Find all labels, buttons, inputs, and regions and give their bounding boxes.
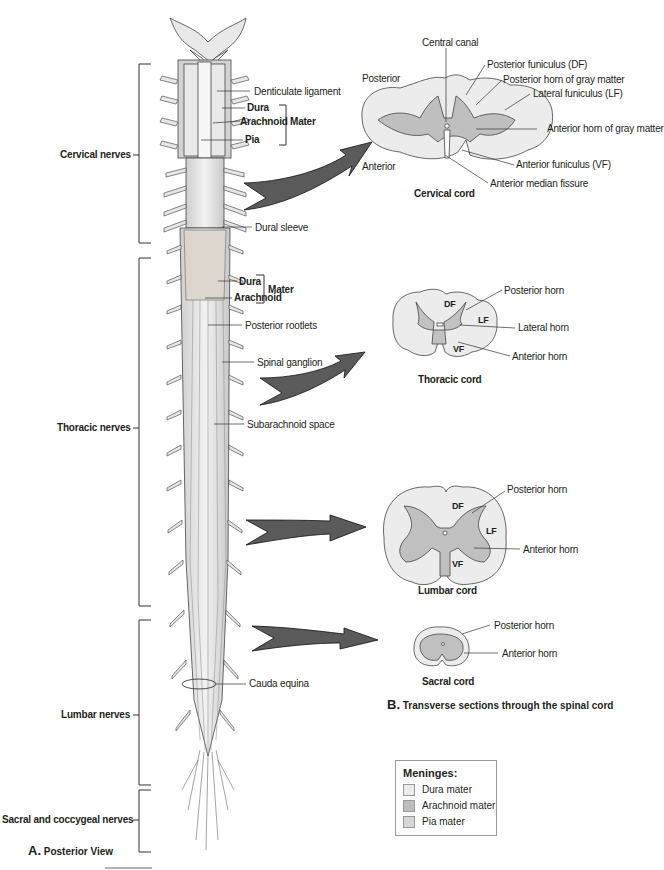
legend-label-arachnoid: Arachnoid mater	[422, 800, 495, 811]
lumbar-vf: VF	[452, 558, 463, 570]
arrow-sacral	[252, 626, 378, 651]
label-anterior-funiculus: Anterior funiculus (VF)	[516, 159, 611, 171]
caption-b: B. Transverse sections through the spina…	[387, 697, 613, 712]
label-thoracic-posterior-horn: Posterior horn	[504, 285, 564, 297]
thoracic-vf: VF	[453, 343, 464, 355]
thoracic-lf: LF	[478, 314, 489, 326]
arrow-lumbar	[246, 515, 366, 545]
label-lumbar-posterior-horn: Posterior horn	[507, 484, 567, 496]
region-label-lumbar: Lumbar nerves	[61, 709, 130, 721]
dura-arachnoid-flap	[184, 230, 226, 300]
thoracic-df: DF	[444, 298, 456, 310]
label-arachnoid-cervical: Arachnoid	[240, 116, 288, 128]
label-central-canal: Central canal	[422, 37, 478, 49]
cauda-filaments	[182, 750, 234, 850]
lumbar-lf: LF	[486, 525, 497, 537]
sacral-cross-section	[414, 627, 469, 666]
caption-a: A. Posterior View	[28, 843, 113, 858]
label-anterior-median-fissure: Anterior median fissure	[490, 178, 588, 190]
label-dural-sleeve: Dural sleeve	[255, 222, 308, 234]
title-sacral-cord: Sacral cord	[422, 676, 474, 688]
caption-b-text: Transverse sections through the spinal c…	[403, 700, 614, 711]
title-lumbar-cord: Lumbar cord	[418, 585, 477, 597]
cervical-cross-section	[362, 75, 553, 159]
arrow-cervical	[244, 142, 372, 210]
title-cervical-cord: Cervical cord	[414, 188, 475, 200]
label-subarachnoid-space: Subarachnoid space	[247, 419, 335, 431]
label-cauda-equina: Cauda equina	[249, 678, 309, 690]
label-mater-cervical: Mater	[290, 116, 316, 128]
label-thoracic-anterior-horn: Anterior horn	[512, 351, 567, 363]
label-pia: Pia	[245, 134, 259, 146]
label-anterior-direction: Anterior	[362, 161, 395, 173]
swatch-dura	[403, 784, 415, 796]
label-posterior-funiculus: Posterior funiculus (DF)	[487, 59, 587, 71]
label-lumbar-anterior-horn: Anterior horn	[523, 544, 578, 556]
swatch-pia	[403, 816, 415, 828]
label-denticulate-ligament: Denticulate ligament	[254, 86, 341, 98]
arrows	[244, 142, 378, 651]
cervical-cord-segment	[186, 158, 224, 228]
label-sacral-anterior-horn: Anterior horn	[502, 648, 557, 660]
label-dura-thoracic: Dura	[239, 276, 261, 288]
swatch-arachnoid	[403, 800, 415, 812]
label-anterior-horn-gray: Anterior horn of gray matter	[547, 123, 664, 135]
lumbar-df: DF	[452, 500, 464, 512]
label-posterior-horn-gray: Posterior horn of gray matter	[503, 74, 624, 86]
label-lateral-funiculus: Lateral funiculus (LF)	[533, 88, 623, 100]
caption-a-text: Posterior View	[44, 846, 113, 857]
legend-title: Meninges:	[403, 767, 457, 779]
dural-sac	[180, 228, 230, 756]
region-label-thoracic: Thoracic nerves	[57, 422, 131, 434]
title-thoracic-cord: Thoracic cord	[418, 374, 482, 386]
label-mater-thoracic: Mater	[268, 284, 294, 296]
label-thoracic-lateral-horn: Lateral horn	[518, 322, 569, 334]
region-label-cervical: Cervical nerves	[60, 149, 131, 161]
meninges-legend: Meninges: Dura mater Arachnoid mater Pia…	[395, 760, 497, 836]
legend-label-dura: Dura mater	[422, 784, 472, 795]
caption-a-letter: A.	[28, 843, 41, 858]
cervical-dura	[178, 60, 231, 158]
legend-label-pia: Pia mater	[422, 816, 465, 827]
label-spinal-ganglion: Spinal ganglion	[257, 357, 322, 369]
label-posterior-rootlets: Posterior rootlets	[245, 320, 317, 332]
region-brackets	[133, 64, 151, 852]
region-label-sacral-coccygeal: Sacral and coccygeal nerves	[2, 814, 133, 826]
label-dura-cervical: Dura	[247, 102, 269, 114]
label-posterior-direction: Posterior	[362, 73, 400, 85]
caption-b-letter: B.	[387, 697, 400, 712]
label-sacral-posterior-horn: Posterior horn	[494, 620, 554, 632]
